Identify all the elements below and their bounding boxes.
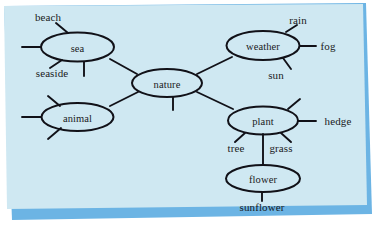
stub-plant-up [288,99,300,109]
node-label-nature: nature [154,78,181,89]
leaf-label-tree: tree [228,143,245,154]
node-label-animal: animal [63,112,92,123]
diagram-canvas: seanatureweatheranimalplantflowerbeachse… [0,0,380,233]
leaf-label-hedge: hedge [325,116,352,127]
leaf-label-rain: rain [289,15,307,26]
node-label-plant: plant [252,116,274,127]
stub-sea-beach [56,23,68,33]
leaf-label-grass: grass [269,143,292,154]
node-label-weather: weather [246,41,280,52]
node-label-flower: flower [249,174,277,185]
edge-nature-weather [197,57,232,74]
semantic-network [0,0,380,233]
node-label-sea: sea [71,42,85,53]
leaf-label-seaside: seaside [36,68,68,79]
leaf-label-sun: sun [268,70,284,81]
leaf-label-beach: beach [35,12,61,23]
stub-weather-rain [286,25,297,32]
edge-animal-nature [110,92,138,106]
stub-weather-sun [283,58,291,69]
edge-nature-plant [197,92,233,109]
edge-sea-nature [110,59,137,74]
leaf-label-fog: fog [321,41,336,52]
leaf-label-sunflower: sunflower [240,202,285,213]
